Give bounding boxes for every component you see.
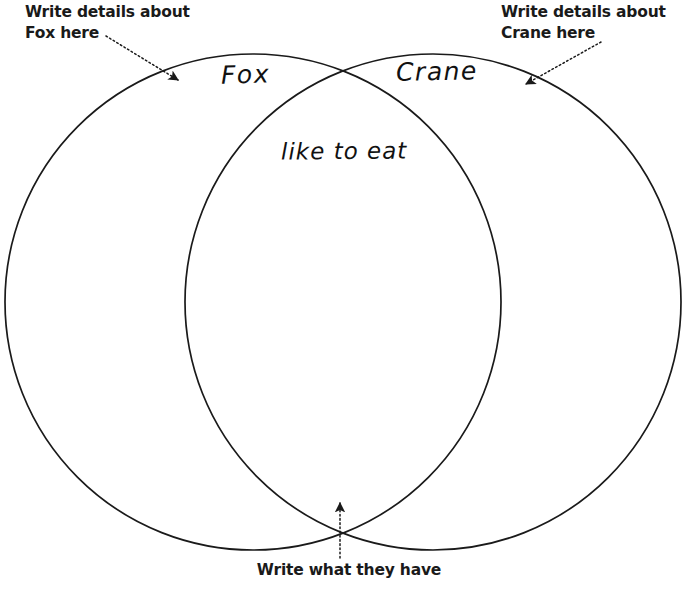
instruction-fox: Write details about Fox here bbox=[25, 2, 190, 44]
crane-circle-label: Crane bbox=[396, 56, 478, 86]
instruction-shared: Write what they have bbox=[0, 560, 692, 581]
worksheet-page: Fox Crane like to eat Write details abou… bbox=[0, 0, 692, 591]
venn-diagram bbox=[0, 0, 692, 591]
arrow-to-crane-region bbox=[526, 42, 601, 84]
instruction-crane: Write details about Crane here bbox=[501, 2, 666, 44]
intersection-label: like to eat bbox=[281, 137, 407, 164]
crane-circle bbox=[185, 54, 681, 550]
fox-circle-label: Fox bbox=[221, 59, 271, 89]
fox-circle bbox=[5, 54, 501, 550]
